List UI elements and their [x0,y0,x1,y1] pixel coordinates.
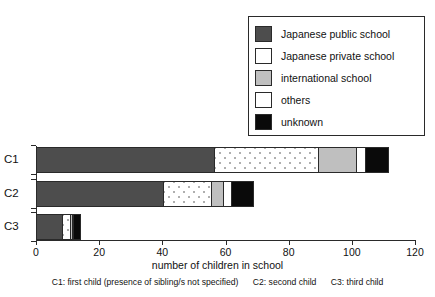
y-tick-c2-lower [31,208,36,209]
bar-segment-c1-unknown [365,148,387,172]
x-tick-80 [289,240,290,245]
y-tick-c3 [31,212,36,213]
x-tick-label-120: 120 [406,246,424,258]
bar-segment-c1-japanese-public-school [37,148,214,172]
category-label-c3: C3 [4,220,19,232]
swatch-international-school-icon [255,70,272,86]
x-tick-label-60: 60 [220,246,232,258]
x-tick-120 [415,240,416,245]
bar-c1 [36,147,389,173]
legend-label-others: others [281,94,310,106]
x-tick-label-80: 80 [283,246,295,258]
caption-c2: C2: second child [253,277,317,287]
legend-label-unknown: unknown [281,116,323,128]
legend-item-unknown: unknown [255,111,424,133]
caption-c3: C3: third child [331,277,384,287]
bar-c3 [36,214,81,240]
bar-segment-c3-japanese-public-school [37,215,62,239]
x-tick-40 [162,240,163,245]
category-label-c1: C1 [4,153,19,165]
swatch-unknown-icon [255,114,272,130]
bar-segment-c1-others [356,148,365,172]
bar-segment-c2-others [223,182,231,206]
legend-item-japanese-public-school: Japanese public school [255,23,424,45]
bar-segment-c1-international-school [318,148,356,172]
swatch-others-icon [255,92,272,108]
x-tick-0 [36,240,37,245]
legend-label-japanese-private-school: Japanese private school [281,50,394,62]
bar-segment-c2-japanese-private-school [163,182,210,206]
swatch-japanese-private-school-icon [255,48,272,64]
chart-legend: Japanese public school Japanese private … [248,16,425,136]
caption-c1: C1: first child (presence of sibling/s n… [52,277,239,287]
x-tick-20 [99,240,100,245]
x-axis-label: number of children in school [0,259,435,271]
bar-segment-c1-japanese-private-school [214,148,318,172]
swatch-japanese-public-school-icon [255,26,272,42]
x-tick-label-100: 100 [343,246,361,258]
figure-caption: C1: first child (presence of sibling/s n… [0,277,435,287]
bar-segment-c3-japanese-private-school [62,215,70,239]
category-label-c2: C2 [4,187,19,199]
legend-label-international-school: international school [281,72,371,84]
y-tick-c1-lower [31,174,36,175]
legend-label-japanese-public-school: Japanese public school [281,28,390,40]
legend-item-others: others [255,89,424,111]
bar-segment-c2-international-school [211,182,224,206]
x-tick-60 [226,240,227,245]
legend-item-international-school: international school [255,67,424,89]
x-tick-label-20: 20 [93,246,105,258]
y-tick-c2 [31,179,36,180]
x-tick-100 [352,240,353,245]
y-tick-c1 [31,145,36,146]
bar-segment-c2-unknown [231,182,253,206]
y-tick-c3-lower [31,241,36,242]
x-tick-label-40: 40 [156,246,168,258]
bar-c2 [36,181,254,207]
x-tick-label-0: 0 [33,246,39,258]
stacked-bar-chart-figure: Japanese public school Japanese private … [0,0,435,297]
bar-segment-c2-japanese-public-school [37,182,163,206]
legend-item-japanese-private-school: Japanese private school [255,45,424,67]
bar-segment-c3-unknown [73,215,79,239]
